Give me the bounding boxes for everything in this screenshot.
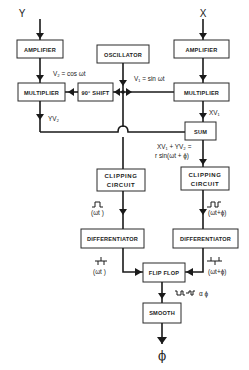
v2-label: V₂ = cos ωt (53, 70, 86, 77)
arrow-down-icon (119, 209, 127, 215)
arrow-left-icon (186, 268, 193, 276)
output-phi-label: ϕ (158, 349, 166, 363)
square-wave-icon (207, 202, 221, 207)
svg-text:90° SHIFT: 90° SHIFT (82, 90, 110, 96)
wire-diff-right-to-flipflop (185, 248, 203, 272)
phase-detector-block-diagram: Y X AMPLIFIER AMPLIFIER V₂ = cos ωt V₁ =… (0, 0, 249, 370)
multiplier-right-block: MULTIPLIER (174, 83, 229, 101)
flip-flop-block: FLIP FLOP (143, 263, 185, 282)
wire-diff-left-to-flipflop (123, 248, 143, 272)
svg-text:CLIPPING: CLIPPING (104, 173, 137, 179)
svg-text:CIRCUIT: CIRCUIT (107, 182, 136, 188)
arrow-left-icon (68, 88, 74, 96)
amplifier-left-block: AMPLIFIER (17, 40, 63, 58)
yv2-label: YV₂ (48, 115, 60, 122)
arrow-down-icon (199, 209, 207, 215)
arrow-down-icon (199, 75, 207, 81)
clipping-circuit-left-block: CLIPPING CIRCUIT (97, 169, 145, 191)
sum-equation-line2: r sin(ωt + ϕ) (155, 152, 189, 160)
pulse-train-icon (207, 257, 222, 265)
differentiator-left-block: DIFFERENTIATOR (81, 229, 144, 248)
sum-block: SUM (185, 122, 216, 140)
xv1-label: XV₁ (209, 109, 220, 116)
arrow-down-icon (36, 75, 44, 81)
svg-text:FLIP FLOP: FLIP FLOP (149, 270, 179, 276)
svg-text:CLIPPING: CLIPPING (188, 172, 221, 178)
svg-text:AMPLIFIER: AMPLIFIER (24, 47, 56, 53)
proportional-phi-label: α ϕ (199, 290, 208, 298)
arrow-down-icon (157, 337, 167, 344)
phase-shift-90-block: 90° SHIFT (78, 83, 113, 101)
svg-text:CIRCUIT: CIRCUIT (191, 181, 220, 187)
wire-yv2-to-sum (40, 126, 185, 132)
wt-diff-label: (ωt ) (93, 268, 106, 276)
svg-text:SUM: SUM (194, 129, 207, 135)
amplifier-right-block: AMPLIFIER (174, 40, 229, 58)
pwm-wave-icon (175, 291, 195, 295)
arrow-down-icon (158, 293, 166, 299)
svg-text:DIFFERENTIATOR: DIFFERENTIATOR (87, 236, 138, 242)
arrow-right-icon (135, 268, 142, 276)
square-wave-icon (92, 202, 103, 207)
svg-text:SMOOTH: SMOOTH (149, 310, 175, 316)
input-x-label: X (200, 8, 207, 19)
sum-equation-line1: XV₁ + YV₂ = (157, 143, 192, 150)
input-y-label: Y (19, 8, 26, 19)
v1-label: V₁ = sin ωt (134, 75, 165, 82)
smooth-block: SMOOTH (143, 303, 181, 323)
arrow-right-icon (126, 88, 132, 96)
svg-text:OSCILLATOR: OSCILLATOR (104, 52, 142, 58)
arrow-down-icon (199, 159, 207, 165)
clipping-circuit-right-block: CLIPPING CIRCUIT (181, 167, 229, 190)
arrow-down-icon (36, 33, 44, 39)
arrow-down-icon (119, 80, 127, 86)
wt-clip-label: (ωt ) (91, 209, 104, 217)
svg-text:MULTIPLIER: MULTIPLIER (24, 90, 59, 96)
differentiator-right-block: DIFFERENTIATOR (173, 229, 238, 248)
wtphi-clip-label: (ωt+ϕ) (208, 209, 226, 217)
oscillator-block: OSCILLATOR (97, 45, 149, 63)
pulse-train-icon (95, 257, 107, 265)
wtphi-diff-label: (ωt+ϕ) (208, 268, 226, 276)
svg-text:AMPLIFIER: AMPLIFIER (186, 47, 218, 53)
arrow-down-icon (199, 113, 207, 119)
multiplier-left-block: MULTIPLIER (18, 83, 65, 101)
svg-text:MULTIPLIER: MULTIPLIER (184, 90, 219, 96)
arrow-down-icon (36, 114, 44, 120)
arrow-down-icon (199, 33, 207, 39)
svg-text:DIFFERENTIATOR: DIFFERENTIATOR (180, 236, 231, 242)
arrow-left-icon (114, 88, 120, 96)
